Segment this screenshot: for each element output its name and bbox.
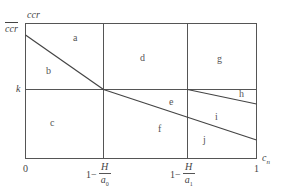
boundary-line-upper bbox=[26, 35, 104, 90]
boundary-line-lower bbox=[104, 90, 257, 141]
boundary-line-h bbox=[188, 90, 257, 105]
region-d: d bbox=[140, 53, 145, 63]
y-axis-label-k: k bbox=[16, 84, 20, 94]
x-tick-1-minus-h-over-a1: 1− H a1 bbox=[170, 162, 195, 187]
x-tick-0: 0 bbox=[23, 164, 28, 174]
y-axis-label-top: ccr bbox=[27, 10, 40, 20]
fraction-numerator: H bbox=[184, 162, 193, 172]
x-tick-1: 1 bbox=[254, 164, 259, 174]
region-j: j bbox=[203, 135, 206, 145]
x-axis-label-sub: n bbox=[266, 158, 270, 166]
region-g: g bbox=[217, 54, 222, 64]
region-f: f bbox=[158, 124, 161, 134]
region-i: i bbox=[215, 112, 218, 122]
x-axis-label: cn bbox=[262, 153, 270, 166]
region-c: c bbox=[50, 118, 54, 128]
fraction-numerator: H bbox=[100, 162, 109, 172]
region-b: b bbox=[46, 66, 51, 76]
x-tick-1-minus-h-over-a0: 1− H a0 bbox=[86, 162, 111, 187]
x-tick-prefix: 1− bbox=[86, 169, 97, 180]
region-h: h bbox=[239, 89, 244, 99]
outer-frame bbox=[26, 24, 257, 159]
y-axis-label-ccr-bar: ccr bbox=[5, 22, 18, 34]
region-a: a bbox=[73, 33, 77, 43]
region-e: e bbox=[169, 97, 173, 107]
fraction-denominator-sub: 0 bbox=[106, 181, 109, 187]
x-tick-prefix: 1− bbox=[170, 169, 181, 180]
fraction-denominator-sub: 1 bbox=[190, 181, 193, 187]
